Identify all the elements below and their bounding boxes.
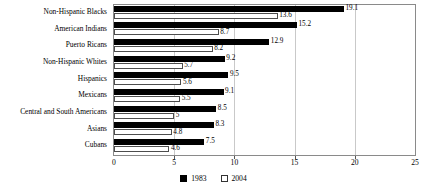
bar-2004 [114, 96, 180, 102]
bar-1983 [114, 72, 228, 78]
plot-area: 19.113.615.28.712.98.29.25.79.55.69.15.5… [113, 4, 416, 156]
category-label: American Indians [0, 25, 107, 33]
legend-label: 1983 [191, 174, 206, 183]
category-label: Mexicans [0, 91, 107, 99]
legend-label: 2004 [232, 174, 247, 183]
bar-1983 [114, 39, 269, 45]
bar-2004 [114, 13, 278, 19]
category-label: Non-Hispanic Blacks [0, 8, 107, 16]
bar-1983 [114, 139, 204, 145]
bar-value-label: 8.5 [216, 104, 226, 113]
bar-1983 [114, 89, 224, 95]
bar-2004 [114, 113, 174, 119]
legend-item: 1983 [180, 174, 206, 183]
bar-value-label: 13.6 [278, 11, 292, 20]
category-label: Non-Hispanic Whites [0, 58, 107, 66]
bar-value-label: 15.2 [297, 20, 311, 29]
category-label: Puerto Ricans [0, 41, 107, 49]
bar-value-label: 8.2 [213, 44, 223, 53]
gridline [355, 5, 356, 155]
bar-1983 [114, 106, 216, 112]
axis-tick-label: 5 [172, 158, 176, 168]
bar-2004 [114, 46, 213, 52]
bar-value-label: 7.5 [204, 137, 214, 146]
category-label: Central and South Americans [0, 108, 107, 116]
bar-value-label: 4.6 [169, 144, 179, 153]
bar-value-label: 8.3 [214, 120, 224, 129]
bar-value-label: 8.7 [219, 28, 229, 37]
bar-2004 [114, 79, 181, 85]
axis-tick-label: 10 [231, 158, 239, 168]
axis-tick-label: 15 [291, 158, 299, 168]
bar-1983 [114, 122, 214, 128]
bar-value-label: 5.6 [181, 78, 191, 87]
bar-2004 [114, 63, 183, 69]
axis-tick-label: 20 [351, 158, 359, 168]
legend-item: 2004 [221, 174, 247, 183]
value-axis: 0510152025 [113, 156, 416, 170]
bar-value-label: 5.5 [180, 94, 190, 103]
bar-2004 [114, 29, 219, 35]
bar-2004 [114, 146, 169, 152]
bar-value-label: 19.1 [344, 4, 358, 13]
bar-1983 [114, 22, 297, 28]
category-label: Asians [0, 125, 107, 133]
category-axis-labels: Non-Hispanic BlacksAmerican IndiansPuert… [0, 4, 110, 156]
axis-tick-label: 25 [411, 158, 419, 168]
axis-tick-label: 0 [112, 158, 116, 168]
bar-value-label: 9.5 [228, 70, 238, 79]
bar-value-label: 4.8 [172, 128, 182, 137]
legend-swatch-icon [221, 175, 228, 182]
bar-value-label: 5.7 [183, 61, 193, 70]
bar-value-label: 9.2 [225, 54, 235, 63]
bar-value-label: 5 [174, 111, 179, 120]
chart-legend: 19832004 [0, 174, 427, 183]
bar-value-label: 12.9 [269, 37, 283, 46]
legend-swatch-icon [180, 175, 187, 182]
bar-2004 [114, 129, 172, 135]
bar-value-label: 9.1 [224, 87, 234, 96]
category-label: Hispanics [0, 75, 107, 83]
bar-chart: Non-Hispanic BlacksAmerican IndiansPuert… [0, 0, 427, 195]
bar-1983 [114, 6, 344, 12]
category-label: Cubans [0, 141, 107, 149]
bar-1983 [114, 56, 225, 62]
